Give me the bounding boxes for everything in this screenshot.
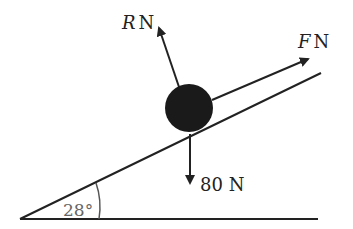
applied-force-arrow <box>212 59 308 100</box>
angle-arc <box>96 183 100 219</box>
force-diagram: 28° RN FN 80 N <box>0 0 353 229</box>
angle-label: 28° <box>63 200 93 220</box>
applied-force-label: FN <box>297 31 329 52</box>
weight-label: 80 N <box>200 174 244 195</box>
normal-force-label: RN <box>121 12 154 33</box>
ball <box>165 84 213 132</box>
normal-force-arrow <box>159 28 179 87</box>
